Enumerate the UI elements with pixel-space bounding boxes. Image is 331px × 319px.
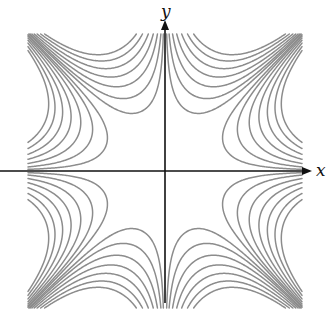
y-axis-label: y	[161, 3, 171, 20]
x-axis-arrowhead-icon	[302, 167, 312, 175]
x-axis-label: x	[316, 162, 326, 179]
contour-plot	[0, 0, 331, 319]
y-axis-arrowhead-icon	[161, 20, 169, 30]
